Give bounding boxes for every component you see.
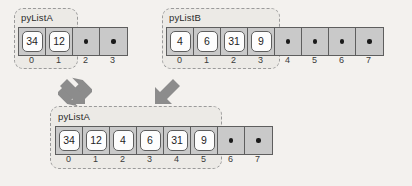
- cell-index-label: 2: [220, 55, 247, 65]
- cell-value-chip: 6: [197, 31, 218, 52]
- list-label: pyListA: [21, 12, 53, 23]
- empty-slot-dot-icon: [286, 39, 290, 43]
- cell-index-label: 7: [355, 55, 382, 65]
- array-cell[interactable]: 4: [110, 127, 137, 154]
- empty-slot-dot-icon: [256, 138, 260, 142]
- array-cell[interactable]: 6: [194, 28, 221, 55]
- array-cell[interactable]: 34: [19, 28, 46, 55]
- cell-index-label: 4: [274, 55, 301, 65]
- empty-slot-dot-icon: [111, 39, 115, 43]
- cell-index-label: 1: [82, 154, 109, 164]
- array-cell[interactable]: [302, 28, 329, 55]
- cell-value-chip: 9: [251, 31, 272, 52]
- array-cell[interactable]: [245, 127, 272, 154]
- array-cells: 34 12: [18, 27, 128, 56]
- array-cell[interactable]: 31: [221, 28, 248, 55]
- arrow-from-pylista-icon: [58, 76, 92, 112]
- cell-index-label: 2: [109, 154, 136, 164]
- cell-value-chip: 34: [22, 31, 43, 52]
- cell-index-label: 0: [166, 55, 193, 65]
- cell-value-chip: 31: [224, 31, 245, 52]
- cell-value-chip: 34: [59, 130, 80, 151]
- cell-value-chip: 12: [86, 130, 107, 151]
- array-cell[interactable]: [356, 28, 383, 55]
- cell-value-chip: 12: [49, 31, 70, 52]
- cell-value-chip: 9: [194, 130, 215, 151]
- array-cell[interactable]: 4: [167, 28, 194, 55]
- cell-index-label: 3: [99, 55, 126, 65]
- cell-value-chip: 4: [170, 31, 191, 52]
- array-cell[interactable]: [100, 28, 127, 55]
- cell-index-label: 2: [72, 55, 99, 65]
- array-cell[interactable]: 9: [191, 127, 218, 154]
- array-cell[interactable]: 34: [56, 127, 83, 154]
- cell-index-label: 0: [18, 55, 45, 65]
- cell-index-label: 3: [136, 154, 163, 164]
- list-label: pyListA: [58, 111, 90, 122]
- cell-index-label: 0: [55, 154, 82, 164]
- cell-index-label: 3: [247, 55, 274, 65]
- index-row: 0 1 2 3: [18, 55, 126, 65]
- empty-slot-dot-icon: [84, 39, 88, 43]
- cell-value-chip: 4: [113, 130, 134, 151]
- empty-slot-dot-icon: [367, 39, 371, 43]
- list-label: pyListB: [169, 12, 201, 23]
- cell-value-chip: 31: [167, 130, 188, 151]
- cell-index-label: 1: [45, 55, 72, 65]
- cell-index-label: 7: [244, 154, 271, 164]
- array-cell[interactable]: 12: [83, 127, 110, 154]
- empty-slot-dot-icon: [229, 138, 233, 142]
- empty-slot-dot-icon: [313, 39, 317, 43]
- index-row: 0 1 2 3 4 5 6 7: [166, 55, 382, 65]
- cell-index-label: 4: [163, 154, 190, 164]
- array-cell[interactable]: 9: [248, 28, 275, 55]
- array-cell[interactable]: [218, 127, 245, 154]
- array-cell[interactable]: 6: [137, 127, 164, 154]
- index-row: 0 1 2 3 4 5 6 7: [55, 154, 271, 164]
- diagram-canvas: pyListA 34 12 0 1 2 3 pyListB: [0, 0, 412, 186]
- cell-index-label: 5: [190, 154, 217, 164]
- array-cell[interactable]: 12: [46, 28, 73, 55]
- cell-index-label: 6: [217, 154, 244, 164]
- cell-index-label: 6: [328, 55, 355, 65]
- array-cells: 4 6 31 9: [166, 27, 384, 56]
- array-cells: 34 12 4 6 31 9: [55, 126, 273, 155]
- cell-index-label: 1: [193, 55, 220, 65]
- empty-slot-dot-icon: [340, 39, 344, 43]
- array-cell[interactable]: [275, 28, 302, 55]
- array-cell[interactable]: [73, 28, 100, 55]
- arrow-from-pylistb-icon: [148, 76, 182, 112]
- array-cell[interactable]: 31: [164, 127, 191, 154]
- cell-value-chip: 6: [140, 130, 161, 151]
- cell-index-label: 5: [301, 55, 328, 65]
- array-cell[interactable]: [329, 28, 356, 55]
